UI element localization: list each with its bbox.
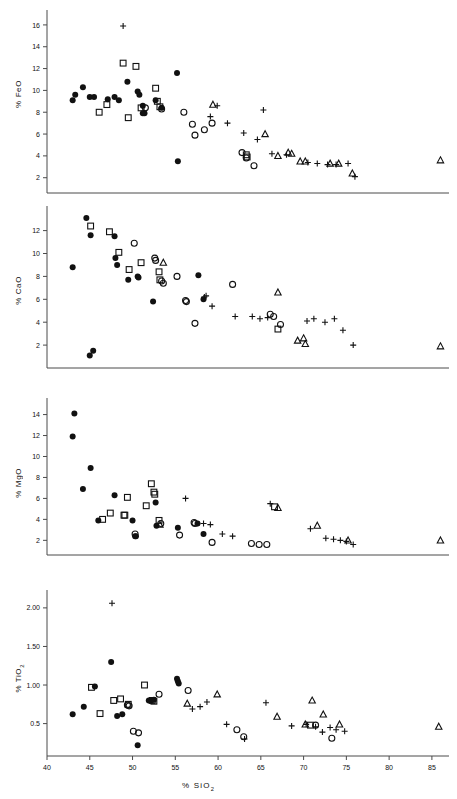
data-point-open-triangle [336,721,342,727]
data-point-plus [350,342,356,348]
data-point-filled-circle [80,84,86,90]
data-point-plus [283,152,289,158]
data-point-open-triangle [160,259,166,265]
data-point-plus [207,522,213,528]
data-point-open-circle [181,109,187,115]
data-point-filled-circle [83,215,89,221]
data-point-open-triangle [214,691,220,697]
data-point-open-triangle [275,289,281,295]
y-tick-label: 6 [36,495,40,502]
axis-lines [47,398,449,555]
data-point-plus [340,327,346,333]
data-point-plus [269,151,275,157]
data-point-plus [325,162,331,168]
y-tick-label: 10 [32,250,40,257]
data-point-open-square [88,223,94,229]
data-point-open-triangle [274,713,280,719]
data-point-plus [289,723,295,729]
data-point-filled-circle [88,465,94,471]
data-point-plus [331,316,337,322]
data-point-filled-circle [174,70,180,76]
data-point-filled-circle [136,275,142,281]
data-point-filled-circle [70,97,76,103]
data-point-open-triangle [294,337,300,343]
y-tick-label: 4 [36,319,40,326]
data-point-filled-circle [112,255,118,261]
data-point-open-circle [209,539,215,545]
harker-diagram-figure: % FeO 246810121416 % CaO 24681012 % MgO … [0,0,457,799]
data-point-open-triangle [320,711,326,717]
y-tick-label: 6 [36,296,40,303]
x-tick-label: 50 [129,764,137,771]
data-point-open-circle [156,691,162,697]
data-point-open-circle [174,273,180,279]
data-point-filled-circle [114,713,120,719]
data-point-filled-circle [135,742,141,748]
y-tick-label: 14 [32,43,40,50]
panel-feo: % FeO 246810121416 [0,0,457,196]
data-point-plus [224,120,230,126]
y-tick-label: 0.5 [30,720,40,727]
y-tick-label: 12 [32,432,40,439]
y-tick-label: 2.00 [26,604,40,611]
data-point-open-square [125,115,131,121]
data-point-plus [257,316,263,322]
data-point-open-square [96,109,102,115]
data-point-filled-circle [112,492,118,498]
data-point-open-square [138,260,144,266]
data-point-filled-circle [88,232,94,238]
data-point-open-square [97,711,103,717]
y-tick-label: 12 [32,65,40,72]
data-point-filled-circle [150,299,156,305]
data-point-open-circle [185,687,191,693]
data-point-filled-circle [119,711,125,717]
data-point-open-square [116,249,122,255]
data-point-open-circle [177,532,183,538]
data-point-open-square [153,85,159,91]
data-point-open-circle [329,735,335,741]
data-point-open-square [104,102,110,108]
data-point-open-circle [131,240,137,246]
data-point-filled-circle [175,158,181,164]
data-point-open-circle [192,132,198,138]
y-tick-label: 6 [36,131,40,138]
data-point-open-square [125,494,131,500]
data-point-open-square [156,269,162,275]
data-point-open-square [133,63,139,69]
plot-area-cao: 24681012 [0,196,457,392]
data-point-open-triangle [436,723,442,729]
panel-mgo: % MgO 2468101214 [0,390,457,586]
plot-area-feo: 246810121416 [0,0,457,196]
data-point-open-square [118,696,124,702]
y-tick-label: 2 [36,342,40,349]
y-tick-label: 14 [32,411,40,418]
x-tick-label: 85 [428,764,436,771]
data-point-plus [314,161,320,167]
data-point-filled-circle [176,680,182,686]
data-point-filled-circle [90,348,96,354]
y-tick-label: 8 [36,109,40,116]
data-point-plus [345,161,351,167]
x-tick-label: 75 [342,764,350,771]
data-point-filled-circle [70,264,76,270]
data-point-filled-circle [195,272,201,278]
data-point-plus [232,313,238,319]
data-point-plus [265,315,271,321]
x-axis-label: % SiO2 [182,781,215,792]
data-point-open-triangle [309,697,315,703]
axis-lines [47,590,449,756]
data-point-plus [120,23,126,29]
data-point-plus [319,729,325,735]
data-point-open-square [142,682,148,688]
data-point-plus [209,303,215,309]
data-point-plus [189,706,195,712]
data-point-plus [254,137,260,143]
data-point-open-circle [209,120,215,126]
data-point-plus [307,526,313,532]
panel-cao: % CaO 24681012 [0,196,457,392]
data-point-filled-circle [80,486,86,492]
data-point-plus [214,103,220,109]
data-point-open-triangle [314,522,320,528]
y-tick-label: 10 [32,87,40,94]
data-point-open-triangle [300,335,306,341]
